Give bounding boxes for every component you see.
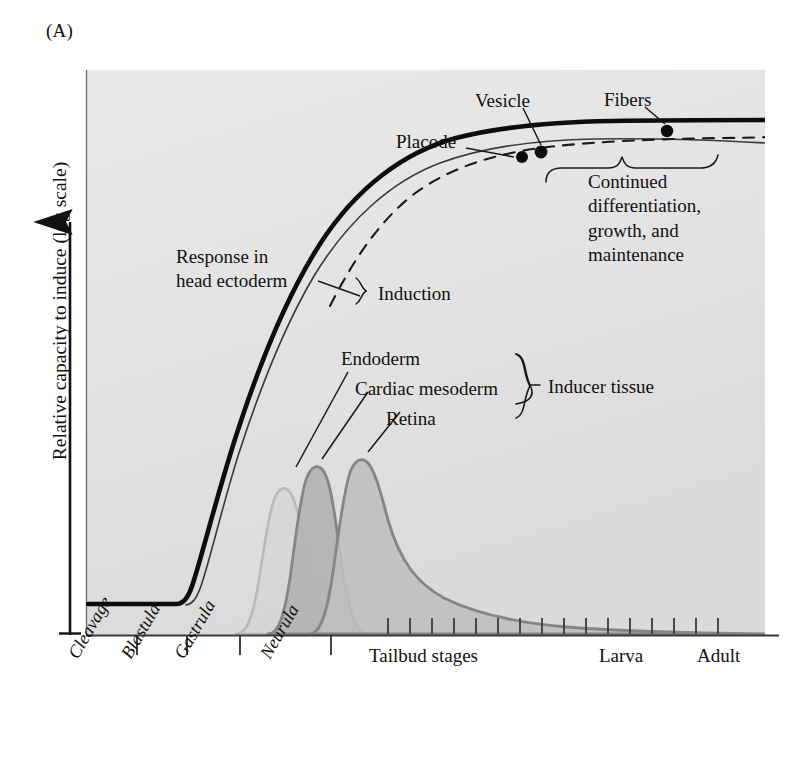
label-placode: Placode [396,131,456,153]
label-fibers: Fibers [604,89,652,111]
label-response-line2: head ectoderm [176,269,326,293]
x-label-larva: Larva [599,645,643,667]
x-label-adult: Adult [697,645,740,667]
continued-line-1: Continued [588,170,788,194]
plot-background [86,70,765,635]
label-vesicle: Vesicle [475,90,530,112]
figure-panel-a: (A) Relative capacity to induce (log sca… [0,0,800,758]
x-axis-major-ticks [137,635,331,655]
label-cardiac-mesoderm: Cardiac mesoderm [355,378,498,400]
label-induction: Induction [378,283,451,305]
y-axis-label: Relative capacity to induce (log scale) [49,101,71,521]
marker-placode[interactable] [516,151,528,163]
label-response-line1: Response in [176,245,326,269]
label-retina: Retina [386,408,436,430]
label-response-head-ectoderm: Response in head ectoderm [176,245,326,294]
marker-vesicle[interactable] [535,146,548,159]
continued-line-4: maintenance [588,243,788,267]
continued-line-3: growth, and [588,219,788,243]
marker-fibers[interactable] [661,125,673,137]
label-inducer-tissue: Inducer tissue [548,376,654,398]
x-label-tailbud-stages: Tailbud stages [369,645,478,667]
label-endoderm: Endoderm [341,348,420,370]
label-continued-differentiation: Continued differentiation, growth, and m… [588,170,788,267]
panel-letter: (A) [46,20,73,42]
continued-line-2: differentiation, [588,194,788,218]
